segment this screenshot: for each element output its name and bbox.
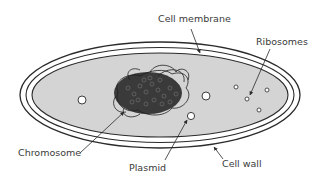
- bacterial-cell-diagram: Cell membrane Ribosomes Chromosome Plasm…: [0, 0, 324, 193]
- label-cell-wall: Cell wall: [222, 159, 262, 169]
- ribosome-circle: [265, 88, 269, 92]
- ribosome-circle: [245, 97, 249, 101]
- label-plasmid: Plasmid: [129, 163, 166, 173]
- plasmid-circle: [202, 92, 210, 100]
- label-chromosome: Chromosome: [18, 148, 81, 158]
- plasmid-circle: [78, 96, 86, 104]
- plasmid-circle: [187, 112, 194, 119]
- label-ribosomes: Ribosomes: [256, 37, 308, 47]
- ribosome-circle: [257, 108, 261, 112]
- label-cell-membrane: Cell membrane: [158, 14, 231, 24]
- ribosome-circle: [234, 85, 238, 89]
